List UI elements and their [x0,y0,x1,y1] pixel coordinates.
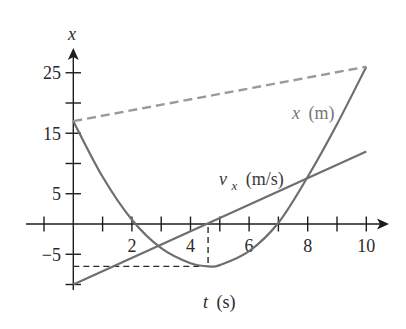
x-axis-title-var: t [203,292,209,312]
position-curve-label-unit: (m) [309,103,335,124]
y-tick-label: 15 [43,124,61,144]
x-axis-title-unit: (s) [217,292,236,313]
tick-labels: 24681025155−5 [42,63,375,265]
x-tick-label: 4 [186,236,195,256]
x-tick-label: 8 [303,236,312,256]
velocity-curve-label-var: v [219,169,227,189]
y-tick-label: −5 [42,245,61,265]
y-tick-label: 25 [43,63,61,83]
velocity-curve-label: v x (m/s) [219,169,284,194]
x-tick-label: 2 [127,236,136,256]
position-curve-label-var: x [291,103,300,123]
position-velocity-chart: 24681025155−5 x t (s) x (m) v x (m/s) [0,0,406,329]
y-axis-title: x [67,24,76,44]
x-axis-title: t (s) [203,292,236,313]
y-tick-label: 5 [52,184,61,204]
velocity-curve-label-sub: x [231,178,238,193]
position-curve [73,67,366,267]
position-curve-label: x (m) [291,103,335,124]
x-tick-label: 10 [357,236,375,256]
velocity-curve-label-unit: (m/s) [246,169,284,190]
